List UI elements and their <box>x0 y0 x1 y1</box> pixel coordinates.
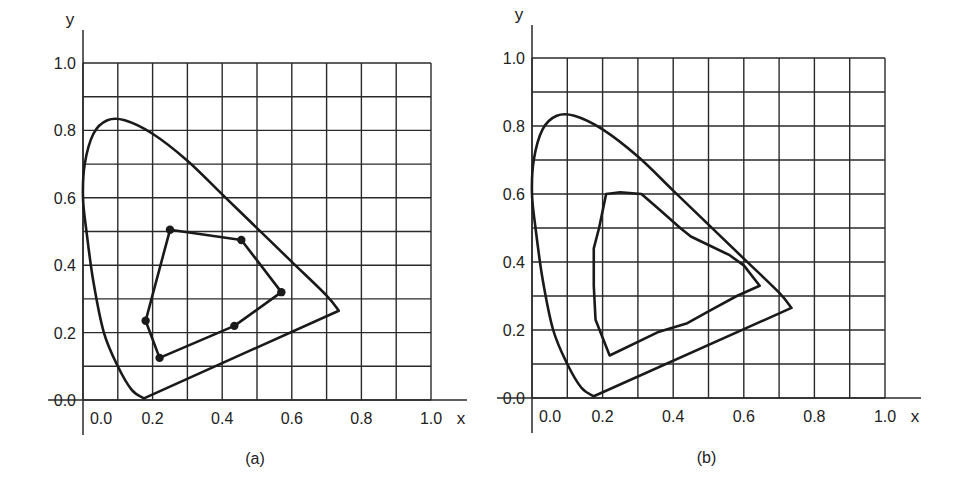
x-tick-label: 1.0 <box>874 408 896 425</box>
gamut-polygon <box>146 230 282 358</box>
x-tick-label: 0.6 <box>281 410 303 427</box>
x-tick-label: 0.4 <box>662 408 684 425</box>
y-tick-label: 0.4 <box>54 257 76 274</box>
x-axis-label: x <box>911 407 920 426</box>
data-point-marker <box>166 226 174 234</box>
y-tick-label: 1.0 <box>54 55 76 72</box>
x-tick-label: 0.8 <box>803 408 825 425</box>
y-tick-label: 0.6 <box>503 186 525 203</box>
x-tick-label: 0.0 <box>539 408 561 425</box>
y-tick-label: 0.8 <box>54 122 76 139</box>
data-point-marker <box>141 317 149 325</box>
grid-lines <box>532 58 885 398</box>
x-tick-label: 0.4 <box>211 410 233 427</box>
panel-caption: (a) <box>245 450 265 467</box>
data-point-marker <box>237 236 245 244</box>
y-axis-label: y <box>515 5 524 24</box>
x-tick-label: 0.2 <box>141 410 163 427</box>
panel-caption: (b) <box>697 449 717 466</box>
y-tick-label: 1.0 <box>503 50 525 67</box>
y-tick-label: 0.4 <box>503 254 525 271</box>
x-tick-label: 0.0 <box>90 410 112 427</box>
data-point-marker <box>230 322 238 330</box>
spectral-locus-curve <box>83 119 339 399</box>
data-point-marker <box>277 288 285 296</box>
y-tick-label: 0.8 <box>503 118 525 135</box>
y-tick-label: 0.0 <box>503 390 525 407</box>
x-tick-label: 0.2 <box>591 408 613 425</box>
x-tick-label: 1.0 <box>420 410 442 427</box>
x-axis-label: x <box>457 409 466 428</box>
data-point-marker <box>155 354 163 362</box>
panel-a-chart: 0.00.20.40.60.81.00.00.20.40.60.81.0yx(a… <box>48 10 467 467</box>
y-axis-label: y <box>66 10 75 29</box>
y-tick-label: 0.2 <box>503 322 525 339</box>
grid-lines <box>83 63 431 400</box>
x-tick-label: 0.6 <box>733 408 755 425</box>
spectral-locus-curve <box>532 114 792 396</box>
y-tick-label: 0.2 <box>54 325 76 342</box>
y-tick-label: 0.6 <box>54 190 76 207</box>
x-tick-label: 0.8 <box>350 410 372 427</box>
y-tick-label: 0.0 <box>54 392 76 409</box>
panel-b-chart: 0.00.20.40.60.81.00.00.20.40.60.81.0yx(b… <box>497 5 921 466</box>
chromaticity-figure: 0.00.20.40.60.81.00.00.20.40.60.81.0yx(a… <box>0 0 964 486</box>
gamut-region <box>594 192 760 355</box>
